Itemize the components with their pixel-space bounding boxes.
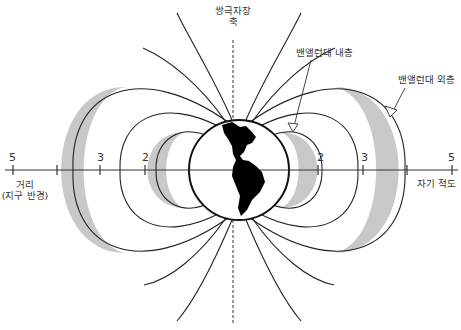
inner-belt-arrowhead	[288, 123, 298, 132]
distance-label: 거리 (지구 반경)	[0, 179, 50, 201]
field-line	[252, 218, 334, 285]
dipole-axis-label-line1: 쌍극자장	[208, 5, 258, 16]
dipole-axis-label-line2: 축	[208, 16, 258, 27]
tick-label-left-5: 5	[9, 151, 16, 164]
field-line	[144, 218, 226, 285]
field-line	[252, 48, 335, 122]
tick-label-right-2: 2	[317, 151, 324, 164]
outer-belt-label: 밴앨런대 외층	[398, 74, 455, 85]
magnetosphere-diagram	[0, 0, 461, 330]
field-line	[246, 13, 301, 120]
distance-label-line2: (지구 반경)	[0, 190, 50, 201]
distance-label-line1: 거리	[0, 179, 50, 190]
tick-label-left-2: 2	[142, 151, 149, 164]
tick-label-right-5: 5	[448, 151, 455, 164]
field-line	[143, 48, 226, 122]
field-line	[177, 13, 232, 120]
inner-belt-pointer	[293, 60, 311, 130]
field-line	[177, 220, 232, 321]
dipole-axis-label: 쌍극자장 축	[208, 5, 258, 27]
tick-label-right-3: 3	[361, 151, 368, 164]
inner-belt-label: 밴앨런대 내층	[296, 47, 353, 58]
magnetic-equator-label: 자기 적도	[417, 178, 456, 189]
tick-label-left-3: 3	[97, 151, 104, 164]
field-line	[246, 220, 301, 321]
